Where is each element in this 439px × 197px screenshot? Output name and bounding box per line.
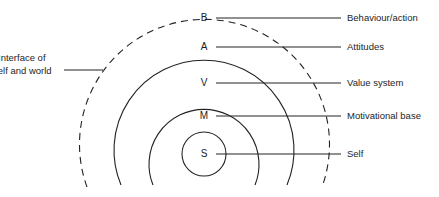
concentric-diagram xyxy=(0,0,439,197)
layer-letter-v: V xyxy=(197,77,211,88)
label-attitudes: Attitudes xyxy=(347,41,384,52)
layer-letter-s: S xyxy=(197,148,211,159)
label-self: Self xyxy=(347,148,363,159)
label-interface-line1: Interface of xyxy=(0,52,46,63)
label-motivational-base: Motivational base xyxy=(347,110,421,121)
layer-letter-a: A xyxy=(197,41,211,52)
layer-letter-m: M xyxy=(197,110,211,121)
layer-letter-b: B xyxy=(197,12,211,23)
label-interface-line2: self and world xyxy=(0,65,52,76)
label-behaviour-action: Behaviour/action xyxy=(347,12,418,23)
label-value-system: Value system xyxy=(347,77,403,88)
